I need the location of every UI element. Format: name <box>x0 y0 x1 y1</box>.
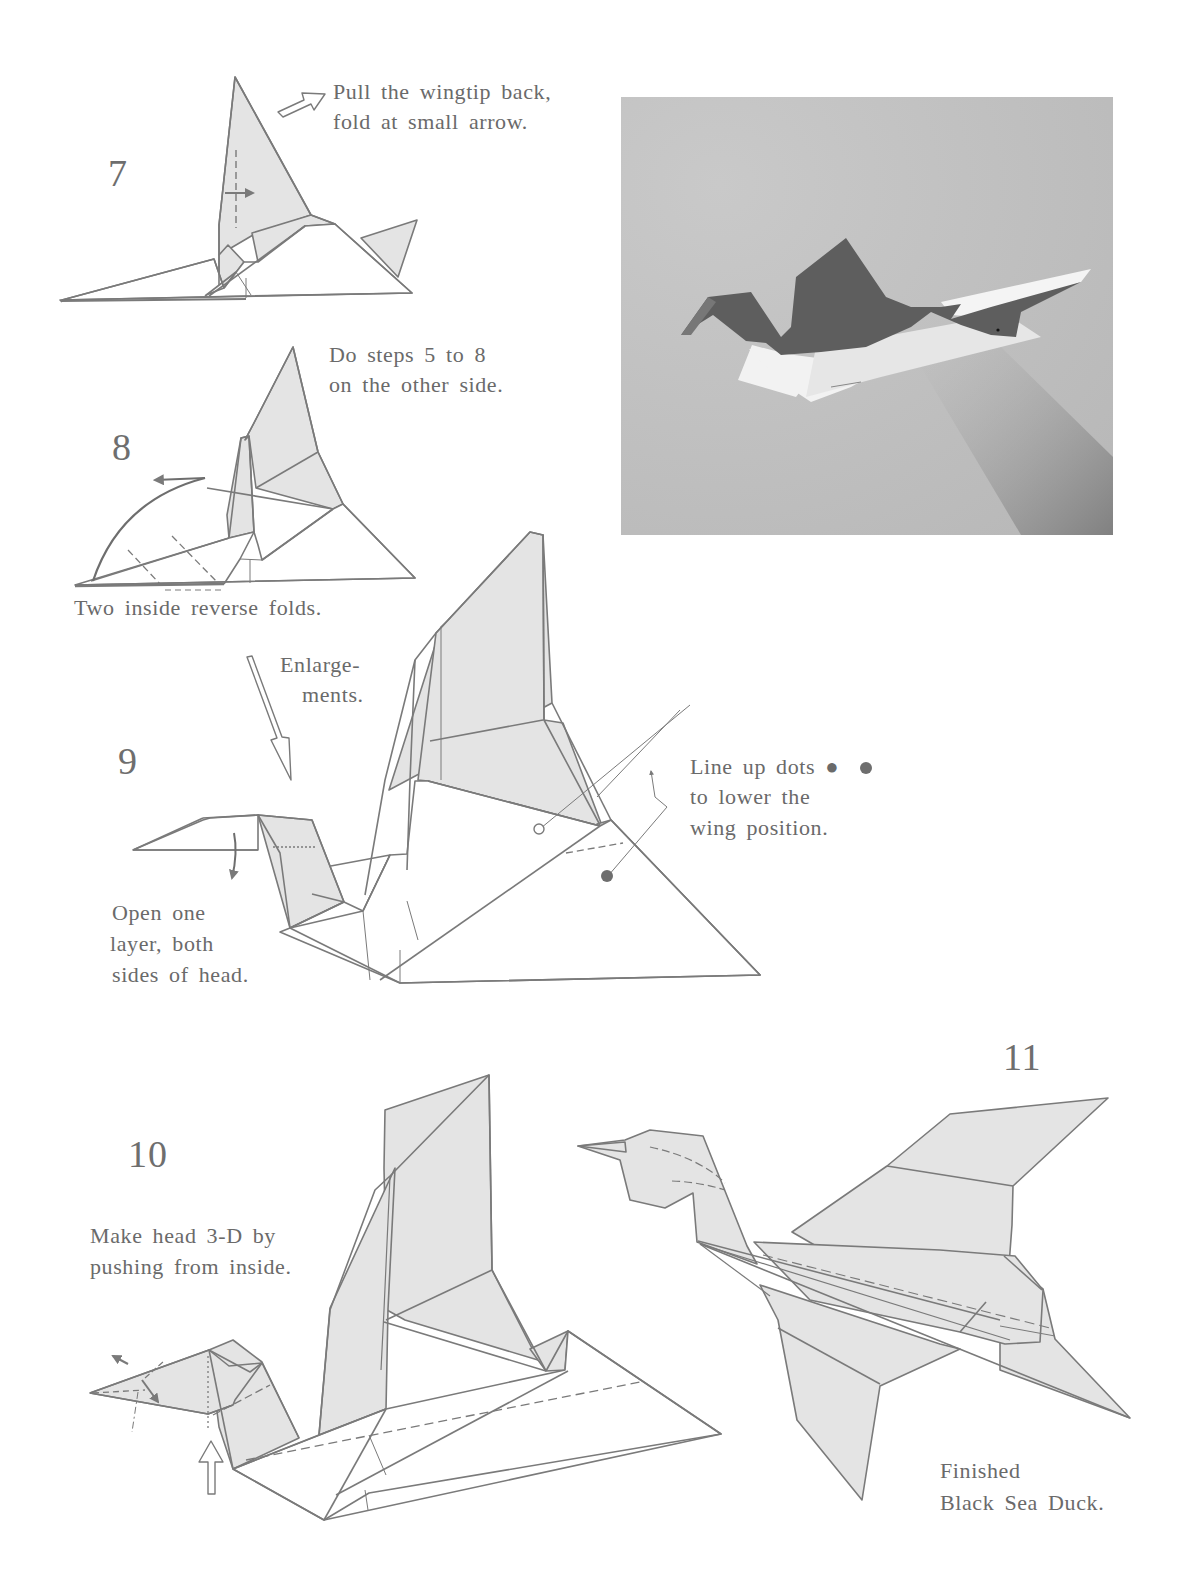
step-9-caption-line-3: wing position. <box>690 813 828 843</box>
step-number-8: 8 <box>112 428 132 466</box>
step-8-bottom-caption: Two inside reverse folds. <box>74 593 322 623</box>
step-9-head-caption-line-1: Open one <box>112 898 206 928</box>
photo-finished-duck <box>621 97 1113 535</box>
step-10-caption-line-1: Make head 3-D by <box>90 1221 276 1251</box>
hollow-arrow-icon <box>278 93 325 117</box>
step-9-caption-line-2: to lower the <box>690 782 810 812</box>
step-9-head-caption-line-2: layer, both <box>110 929 214 959</box>
step-number-10: 10 <box>128 1135 168 1173</box>
step-10-caption-line-2: pushing from inside. <box>90 1252 292 1282</box>
hollow-dot-icon <box>534 824 544 834</box>
enlargement-note-line-1: Enlarge- <box>280 650 360 680</box>
step-9-head-caption-line-3: sides of head. <box>112 960 249 990</box>
step-number-11: 11 <box>1003 1038 1042 1076</box>
step-8-caption-line-2: on the other side. <box>329 370 503 400</box>
filled-dot-icon <box>860 762 872 774</box>
step-11-caption-line-2: Black Sea Duck. <box>940 1488 1104 1518</box>
photo-finished-duck-icon <box>621 97 1113 535</box>
step-7-caption-line-2: fold at small arrow. <box>333 107 528 137</box>
step-number-7: 7 <box>108 154 128 192</box>
step-8-caption-line-1: Do steps 5 to 8 <box>329 340 486 370</box>
step-number-9: 9 <box>118 742 138 780</box>
step-11-caption-line-1: Finished <box>940 1456 1021 1486</box>
push-arrow-icon <box>199 1441 223 1494</box>
enlargement-note-line-2: ments. <box>302 680 364 710</box>
instruction-page: 7 8 9 10 11 Pull the wingtip back, fold … <box>0 0 1204 1577</box>
filled-dot-icon <box>601 870 613 882</box>
step-7-caption-line-1: Pull the wingtip back, <box>333 77 551 107</box>
step-9-caption-line-1: Line up dots ● <box>690 752 839 782</box>
